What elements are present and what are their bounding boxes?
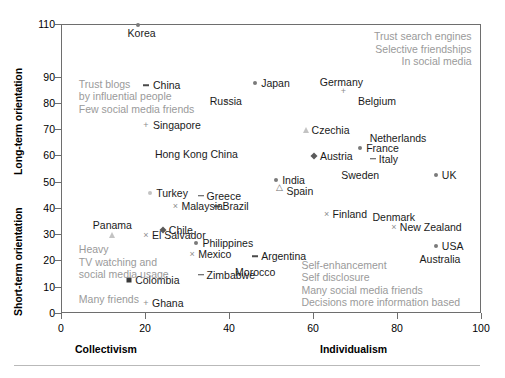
- data-point-label: Italy: [379, 153, 398, 165]
- annotation-line: Few social media friends: [79, 103, 195, 116]
- annotation-line: [79, 281, 169, 294]
- x-tick-label: 40: [223, 322, 235, 334]
- data-point-label: Russia: [210, 95, 242, 107]
- data-point-marker: [370, 158, 376, 160]
- data-point-marker: ×: [172, 203, 179, 210]
- data-point-marker: [194, 241, 198, 245]
- plot-area: KoreaChinaJapan+GermanyBelgiumRussia+Sin…: [61, 24, 481, 313]
- data-point-marker: +: [340, 87, 347, 94]
- data-point-label: Belgium: [358, 95, 396, 107]
- x-tick-label: 80: [391, 322, 403, 334]
- data-point-label: New Zealand: [400, 221, 462, 233]
- y-tick-label: 40: [9, 202, 55, 214]
- y-tick-label: 0: [9, 307, 55, 319]
- y-tick-label: 30: [9, 228, 55, 240]
- data-point-marker: ×: [390, 224, 397, 231]
- annotation-line: Heavy: [79, 243, 169, 256]
- y-tick-label: 20: [9, 254, 55, 266]
- x-tick: [145, 313, 146, 319]
- data-point-label: Germany: [320, 76, 363, 88]
- data-point-marker: [148, 191, 152, 195]
- data-point-label: Hong Kong China: [155, 148, 238, 160]
- data-point-label: Singapore: [153, 119, 201, 131]
- data-point-label: UK: [442, 169, 457, 181]
- data-point-marker: [198, 274, 204, 276]
- data-point-marker: [198, 195, 204, 197]
- x-tick: [481, 313, 482, 319]
- data-point-label: El Salvador: [152, 229, 206, 241]
- data-point-marker: [434, 244, 438, 248]
- data-point-label: Spain: [286, 185, 313, 197]
- data-point-label: Czechia: [312, 124, 350, 136]
- data-point-marker: [277, 188, 283, 194]
- data-point-marker: +: [143, 121, 150, 128]
- data-point-marker: [252, 255, 258, 257]
- x-tick-label: 0: [58, 322, 64, 334]
- data-point-marker: [303, 127, 309, 133]
- annotation-line: Many social media friends: [301, 284, 460, 297]
- data-point-marker: [109, 232, 115, 238]
- data-point: Spain: [62, 25, 68, 31]
- data-point-marker: [253, 81, 257, 85]
- data-point-marker: ×: [189, 250, 196, 257]
- x-tick: [313, 313, 314, 319]
- data-point-label: Japan: [261, 77, 290, 89]
- annotation-line: In social media: [374, 55, 472, 68]
- y-tick-label: 90: [9, 71, 55, 83]
- data-point-label: Panama: [93, 219, 132, 231]
- data-point-marker: [214, 206, 220, 208]
- annotation-bottom-right: Self-enhancementSelf disclosureMany soci…: [301, 259, 460, 309]
- annotation-line: social media usage: [79, 268, 169, 281]
- y-tick-label: 70: [9, 123, 55, 135]
- x-tick: [61, 313, 62, 319]
- annotation-line: TV watching and: [79, 256, 169, 269]
- data-point-label: Morocco: [235, 266, 275, 278]
- y-tick-label: 80: [9, 97, 55, 109]
- x-tick-label: 20: [139, 322, 151, 334]
- annotation-line: Selective friendships: [374, 43, 472, 56]
- annotation-line: Self-enhancement: [301, 259, 460, 272]
- data-point-label: Turkey: [156, 187, 188, 199]
- data-point-label: Finland: [333, 208, 367, 220]
- annotation-line: Decisions more information based: [301, 296, 460, 309]
- data-point-marker: ×: [143, 232, 150, 239]
- x-axis-title-collectivism: Collectivism: [75, 343, 137, 355]
- data-point-marker: [434, 173, 438, 177]
- data-point-label: Korea: [128, 27, 156, 39]
- annotation-line: Self disclosure: [301, 271, 460, 284]
- data-point-marker: [358, 146, 362, 150]
- annotation-top-right: Trust search enginesSelective friendship…: [374, 30, 472, 68]
- x-tick: [397, 313, 398, 319]
- annotation-line: Trust blogs: [79, 78, 195, 91]
- data-point-label: Brazil: [222, 200, 248, 212]
- annotation-top-left: Trust blogsby influential peopleFew soci…: [79, 78, 195, 116]
- data-point-label: Argentina: [261, 250, 306, 262]
- y-tick-label: 50: [9, 176, 55, 188]
- y-tick-label: 60: [9, 149, 55, 161]
- y-tick-label: 10: [9, 281, 55, 293]
- x-axis-title-individualism: Individualism: [320, 343, 387, 355]
- data-point-label: Austria: [320, 150, 353, 162]
- footer-divider: [14, 365, 480, 366]
- x-tick-label: 100: [472, 322, 490, 334]
- x-tick: [229, 313, 230, 319]
- y-tick-label: 110: [9, 18, 55, 30]
- annotation-line: Many friends: [79, 293, 169, 306]
- data-point-label: USA: [442, 240, 464, 252]
- x-tick-label: 60: [307, 322, 319, 334]
- data-point-label: Sweden: [341, 169, 379, 181]
- data-point-marker: ×: [323, 211, 330, 218]
- annotation-line: by influential people: [79, 90, 195, 103]
- annotation-bottom-left: HeavyTV watching andsocial media usage M…: [79, 243, 169, 306]
- annotation-line: Trust search engines: [374, 30, 472, 43]
- data-point-label: Mexico: [198, 248, 231, 260]
- scatter-plot-figure: Long-term orientation Short-term orienta…: [0, 0, 505, 378]
- data-point-marker: [310, 153, 317, 160]
